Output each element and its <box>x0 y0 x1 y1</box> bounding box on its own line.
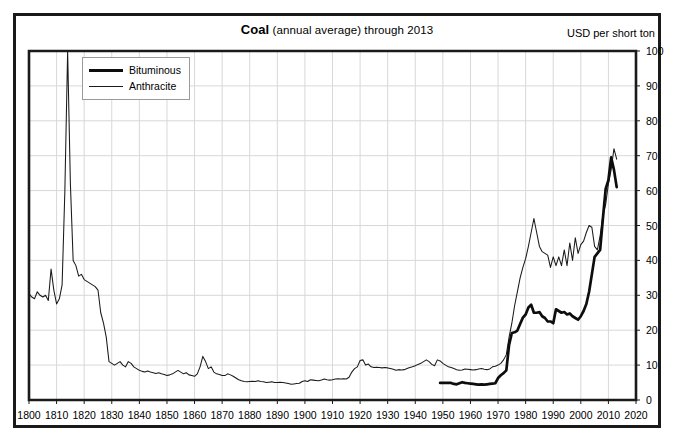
x-tick-label: 2020 <box>624 409 648 421</box>
x-tick-label: 1810 <box>45 409 69 421</box>
x-tick-label: 1880 <box>238 409 262 421</box>
x-tick-label: 1980 <box>514 409 538 421</box>
coal-price-chart-figure: Coal (annual average) through 2013 USD p… <box>0 0 675 442</box>
y-tick-label: 20 <box>646 324 658 336</box>
y-tick-label: 90 <box>646 80 658 92</box>
data-series-layer <box>29 51 617 385</box>
y-tick-label: 100 <box>646 45 664 57</box>
legend-label-bituminous: Bituminous <box>129 65 181 76</box>
legend-label-anthracite: Anthracite <box>129 81 176 92</box>
x-tick-labels: 1800181018201830184018501860187018801890… <box>17 409 648 421</box>
y-tick-label: 80 <box>646 115 658 127</box>
x-tick-label: 1950 <box>431 409 455 421</box>
y-tick-label: 10 <box>646 359 658 371</box>
x-tick-label: 1920 <box>348 409 372 421</box>
legend-swatch-anthracite-icon <box>89 86 123 87</box>
x-tick-label: 1890 <box>266 409 290 421</box>
x-tick-label: 1840 <box>128 409 152 421</box>
legend-item-anthracite: Anthracite <box>89 78 181 94</box>
x-tick-label: 1970 <box>486 409 510 421</box>
x-tick-label: 1960 <box>459 409 483 421</box>
x-tick-label: 1850 <box>155 409 179 421</box>
x-tick-label: 1800 <box>17 409 41 421</box>
legend-item-bituminous: Bituminous <box>89 62 181 78</box>
series-line-bituminous <box>440 157 617 384</box>
x-tick-label: 1990 <box>542 409 566 421</box>
x-tick-label: 1820 <box>73 409 97 421</box>
y-tick-label: 40 <box>646 254 658 266</box>
y-tick-label: 30 <box>646 289 658 301</box>
chart-legend: Bituminous Anthracite <box>82 57 190 100</box>
x-tick-label: 1860 <box>183 409 207 421</box>
y-tick-labels: 0102030405060708090100 <box>646 45 664 406</box>
legend-swatch-bituminous-icon <box>89 69 123 72</box>
y-tick-label: 60 <box>646 185 658 197</box>
x-tick-label: 2010 <box>597 409 621 421</box>
x-tick-label: 1930 <box>376 409 400 421</box>
x-tick-label: 1900 <box>293 409 317 421</box>
x-tick-label: 1870 <box>210 409 234 421</box>
x-tick-label: 2000 <box>569 409 593 421</box>
y-tick-label: 0 <box>646 394 652 406</box>
y-tick-label: 70 <box>646 150 658 162</box>
y-tick-label: 50 <box>646 220 658 232</box>
series-line-anthracite <box>29 51 617 384</box>
x-tick-label: 1910 <box>321 409 345 421</box>
x-tick-label: 1940 <box>404 409 428 421</box>
x-tick-label: 1830 <box>100 409 124 421</box>
